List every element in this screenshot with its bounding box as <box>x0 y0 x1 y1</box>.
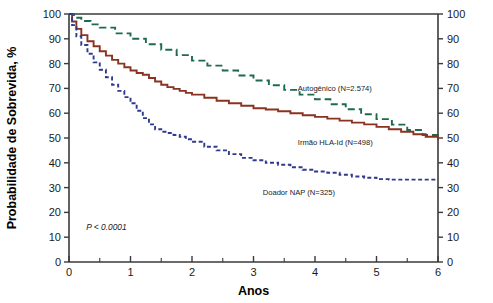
chart-canvas: 0102030405060708090100010203040506070809… <box>0 0 493 303</box>
survival-curve-figure: 0102030405060708090100010203040506070809… <box>0 0 493 303</box>
series-label-doador-nap: Doador NAP (N=325) <box>263 188 336 197</box>
y-tick-label-right: 70 <box>447 82 459 94</box>
x-tick-label: 5 <box>373 266 379 278</box>
y-axis-title: Probabilidade de Sobrevida, % <box>5 47 19 230</box>
y-tick-label-right: 0 <box>447 256 453 268</box>
x-tick-label: 1 <box>127 266 133 278</box>
y-tick-label-left: 60 <box>49 107 61 119</box>
y-tick-label-left: 50 <box>49 132 61 144</box>
y-tick-label-right: 30 <box>447 182 459 194</box>
y-tick-label-left: 20 <box>49 206 61 218</box>
x-tick-label: 4 <box>312 266 318 278</box>
y-tick-label-right: 90 <box>447 33 459 45</box>
x-axis-title: Anos <box>238 284 269 298</box>
y-tick-label-right: 100 <box>447 8 465 20</box>
y-tick-label-left: 70 <box>49 82 61 94</box>
series-label-irmao-hla-id: Irmão HLA-Id (N=498) <box>298 138 373 147</box>
series-label-autogenico: Autogênico (N=2.574) <box>298 84 373 93</box>
y-tick-label-left: 0 <box>55 256 61 268</box>
y-tick-label-left: 100 <box>43 8 61 20</box>
y-tick-label-left: 10 <box>49 231 61 243</box>
y-tick-label-right: 50 <box>447 132 459 144</box>
y-tick-label-right: 40 <box>447 157 459 169</box>
survival-curve-autogenico <box>69 14 438 139</box>
survival-curve-doador-nap <box>69 14 438 180</box>
y-tick-label-right: 20 <box>447 206 459 218</box>
x-tick-label: 2 <box>189 266 195 278</box>
x-tick-label: 0 <box>66 266 72 278</box>
y-tick-label-left: 80 <box>49 58 61 70</box>
y-tick-label-right: 10 <box>447 231 459 243</box>
x-tick-label: 6 <box>435 266 441 278</box>
y-tick-label-left: 90 <box>49 33 61 45</box>
y-tick-label-right: 60 <box>447 107 459 119</box>
x-tick-label: 3 <box>250 266 256 278</box>
y-tick-label-left: 40 <box>49 157 61 169</box>
p-value-annotation: P < 0.0001 <box>86 222 126 232</box>
y-tick-label-right: 80 <box>447 58 459 70</box>
y-tick-label-left: 30 <box>49 182 61 194</box>
